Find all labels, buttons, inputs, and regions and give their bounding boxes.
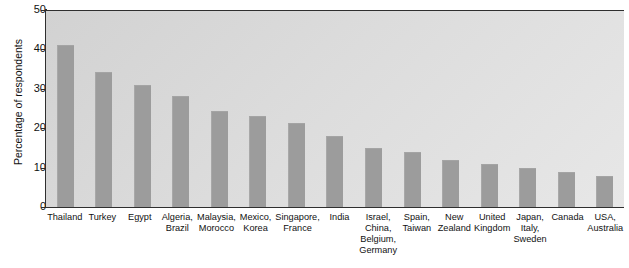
- bar-slot: [393, 11, 432, 207]
- bar-slot: [585, 11, 624, 207]
- bar: [134, 85, 151, 207]
- bar: [288, 123, 305, 207]
- x-axis-label: New Zealand: [436, 212, 474, 256]
- bar-slot: [431, 11, 470, 207]
- plot-area: [46, 10, 624, 207]
- bar: [481, 164, 498, 207]
- bar-slot: [123, 11, 162, 207]
- bar: [211, 111, 228, 207]
- bar-chart: Percentage of respondents 01020304050 Th…: [0, 0, 629, 268]
- x-axis-label: Japan, Italy, Sweden: [511, 212, 549, 256]
- x-axis-label: Spain, Taiwan: [398, 212, 436, 256]
- bar: [57, 45, 74, 207]
- x-axis-label: Turkey: [84, 212, 122, 256]
- bar: [442, 160, 459, 207]
- bar-slot: [508, 11, 547, 207]
- x-axis-label: Algeria, Brazil: [159, 212, 197, 256]
- bar-slot: [46, 11, 85, 207]
- x-axis-label: India: [321, 212, 359, 256]
- x-axis-label-group: ThailandTurkeyEgyptAlgeria, BrazilMalays…: [46, 212, 624, 256]
- bar: [365, 148, 382, 207]
- x-axis-label: USA, Australia: [586, 212, 624, 256]
- bar: [519, 168, 536, 207]
- bar-slot: [277, 11, 316, 207]
- bar-slot: [200, 11, 239, 207]
- bar: [596, 176, 613, 207]
- x-axis-label: Singapore, France: [274, 212, 320, 256]
- x-axis-label: United Kingdom: [473, 212, 511, 256]
- bar: [326, 136, 343, 207]
- x-axis-label: Israel, China, Belgium, Germany: [358, 212, 398, 256]
- bar: [404, 152, 421, 207]
- bar: [95, 72, 112, 207]
- bar: [172, 96, 189, 208]
- bar-slot: [547, 11, 586, 207]
- bar-slot: [354, 11, 393, 207]
- bar: [249, 116, 266, 207]
- x-axis-label: Malaysia, Morocco: [196, 212, 237, 256]
- bar-slot: [85, 11, 124, 207]
- x-axis-label: Canada: [549, 212, 587, 256]
- bar-slot: [316, 11, 355, 207]
- bar-slot: [239, 11, 278, 207]
- bar-slot: [470, 11, 509, 207]
- x-axis-label: Egypt: [121, 212, 159, 256]
- x-axis-label: Thailand: [46, 212, 84, 256]
- x-axis-label: Mexico, Korea: [237, 212, 275, 256]
- bar: [558, 172, 575, 207]
- bar-slot: [162, 11, 201, 207]
- bar-series: [46, 11, 624, 207]
